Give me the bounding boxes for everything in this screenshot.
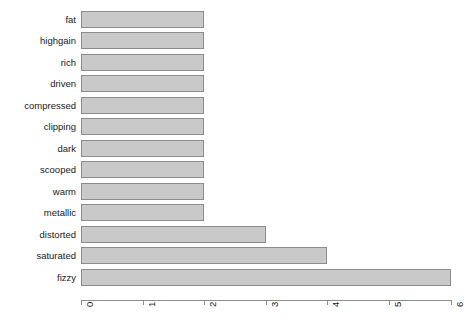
bar-compressed [81,97,204,114]
bar-highgain [81,32,204,49]
x-tick-1 [143,300,144,305]
category-label-rich: rich [61,58,76,68]
x-tick-4 [327,300,328,305]
x-tick-label-6: 6 [455,302,464,307]
bar-saturated [81,247,327,264]
category-label-fizzy: fizzy [57,273,76,283]
category-label-highgain: highgain [40,36,76,46]
bar-scooped [81,161,204,178]
x-tick-label-4: 4 [331,302,340,307]
category-label-metallic: metallic [44,208,76,218]
category-label-compressed: compressed [24,101,76,111]
bar-driven [81,75,204,92]
plot-area: fat highgain rich driven compressed clip… [0,0,471,331]
bar-metallic [81,204,204,221]
x-tick-label-5: 5 [393,302,402,307]
bar-distorted [81,226,266,243]
bar-warm [81,183,204,200]
x-tick-label-1: 1 [147,302,156,307]
bar-rich [81,54,204,71]
bar-clipping [81,118,204,135]
x-tick-2 [204,300,205,305]
x-tick-0 [81,300,82,305]
x-tick-label-3: 3 [270,302,279,307]
x-tick-5 [389,300,390,305]
category-label-scooped: scooped [40,165,76,175]
x-tick-label-0: 0 [85,302,94,307]
x-tick-label-2: 2 [208,302,217,307]
bar-dark [81,140,204,157]
category-label-driven: driven [50,79,76,89]
bar-fizzy [81,269,451,286]
category-label-warm: warm [53,187,76,197]
chart-screenshot: sentence and tablet feature fat highgain… [0,0,471,331]
category-label-saturated: saturated [36,251,76,261]
x-tick-6 [451,300,452,305]
category-label-dark: dark [58,144,76,154]
category-label-distorted: distorted [40,230,76,240]
bar-fat [81,11,204,28]
category-label-clipping: clipping [44,122,76,132]
x-tick-3 [266,300,267,305]
category-label-fat: fat [65,15,76,25]
